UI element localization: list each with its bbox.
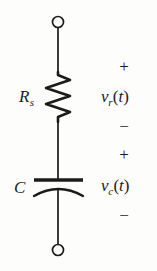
capacitor-voltage-minus-sign: −	[113, 207, 135, 224]
resistor-designator-letter: R	[19, 87, 29, 106]
resistor-zigzag	[46, 72, 70, 122]
bottom-terminal-node	[53, 245, 64, 256]
resistor-voltage-argument: (t)	[113, 87, 129, 106]
resistor-voltage-subscript: r	[108, 96, 112, 108]
circuit-schematic	[0, 0, 157, 271]
capacitor-voltage-subscript: c	[108, 185, 113, 197]
capacitor-voltage-plus-sign: +	[113, 146, 135, 163]
capacitor-voltage-label: vc(t)	[101, 177, 130, 194]
capacitor-designator-label: C	[14, 179, 25, 196]
resistor-voltage-minus-sign: −	[113, 118, 135, 135]
capacitor-designator-letter: C	[14, 178, 25, 197]
resistor-voltage-time-variable: t	[119, 87, 124, 106]
capacitor-voltage-time-variable: t	[119, 176, 124, 195]
resistor-designator-subscript: s	[30, 96, 34, 108]
circuit-diagram-figure: Rs C + vr(t) − + vc(t) −	[0, 0, 157, 271]
capacitor-voltage-argument: (t)	[113, 176, 129, 195]
resistor-voltage-label: vr(t)	[101, 88, 129, 105]
resistor-voltage-plus-sign: +	[113, 58, 135, 75]
resistor-designator-label: Rs	[19, 88, 34, 105]
top-terminal-node	[53, 17, 64, 28]
